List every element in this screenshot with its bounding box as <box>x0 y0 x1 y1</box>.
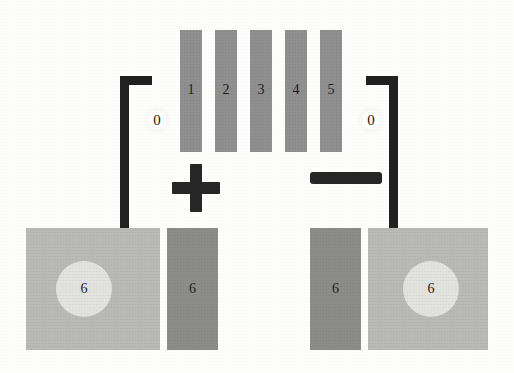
right-terminal-zero-label: 0 <box>356 105 386 135</box>
left-wire-horizontal <box>120 76 152 85</box>
figure-canvas: 1 2 3 4 5 0 0 6 6 6 6 <box>0 0 514 373</box>
plus-polarity-icon <box>172 164 220 212</box>
left-terminal-zero-text: 0 <box>153 112 161 129</box>
element-bar-1-label: 1 <box>188 83 195 97</box>
element-bar-3: 3 <box>250 30 272 152</box>
element-bar-4: 4 <box>285 30 307 152</box>
block-left-light-label: 6 <box>81 282 88 296</box>
element-bar-5: 5 <box>320 30 342 152</box>
right-wire-horizontal <box>366 76 398 85</box>
element-bar-4-label: 4 <box>293 83 300 97</box>
right-terminal-zero-text: 0 <box>367 112 375 129</box>
block-left-dark-label: 6 <box>189 282 196 296</box>
left-terminal-zero-label: 0 <box>142 105 172 135</box>
element-bar-2-label: 2 <box>223 83 230 97</box>
minus-polarity-icon <box>310 172 382 184</box>
left-wire-vertical <box>120 76 129 234</box>
block-right-light: 6 <box>368 228 488 350</box>
element-bar-2: 2 <box>215 30 237 152</box>
block-right-light-label: 6 <box>428 282 435 296</box>
block-left-light-disc: 6 <box>56 261 112 317</box>
element-bar-5-label: 5 <box>328 83 335 97</box>
block-left-light: 6 <box>26 228 160 350</box>
block-right-dark: 6 <box>310 228 361 350</box>
element-bar-3-label: 3 <box>258 83 265 97</box>
plus-vertical-stroke <box>190 164 202 212</box>
block-left-dark: 6 <box>167 228 218 350</box>
block-right-dark-label: 6 <box>332 282 339 296</box>
right-wire-vertical <box>389 76 398 234</box>
element-bar-1: 1 <box>180 30 202 152</box>
block-right-light-disc: 6 <box>403 261 459 317</box>
